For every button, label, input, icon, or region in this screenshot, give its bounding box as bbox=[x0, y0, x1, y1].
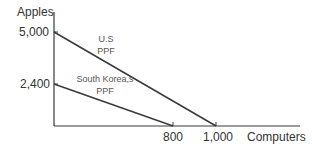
chart-canvas bbox=[0, 0, 312, 149]
us-ppf-annotation-line2: PPF bbox=[93, 45, 119, 57]
us-ppf-annotation: U.S PPF bbox=[93, 33, 119, 57]
x-tick-1000: 1,000 bbox=[203, 131, 233, 143]
y-axis-label: Apples bbox=[17, 6, 54, 18]
x-axis-label: Computers bbox=[247, 131, 306, 143]
south-korea-ppf-annotation-line2: PPF bbox=[74, 85, 136, 97]
south-korea-ppf-annotation: South Korea,s PPF bbox=[74, 73, 136, 97]
y-tick-5000: 5,000 bbox=[19, 26, 49, 38]
us-ppf-annotation-line1: U.S bbox=[93, 33, 119, 45]
south-korea-ppf-annotation-line1: South Korea,s bbox=[74, 73, 136, 85]
x-tick-800: 800 bbox=[163, 131, 183, 143]
y-tick-2400: 2,400 bbox=[20, 78, 50, 90]
